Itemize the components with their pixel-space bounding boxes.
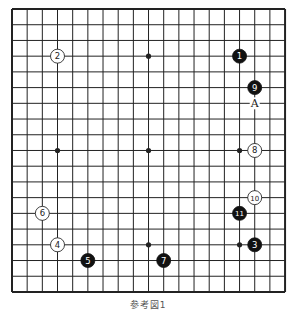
white-stone: 2 (51, 49, 65, 63)
move-number: 1 (237, 51, 242, 61)
white-stone: 6 (35, 206, 49, 220)
white-stone: 10 (248, 191, 262, 205)
black-stone: 11 (233, 206, 247, 220)
move-number: 8 (252, 145, 257, 155)
black-stone: 1 (233, 49, 247, 63)
white-stone: 8 (248, 143, 262, 157)
go-board: 1234567891011 A (0, 0, 296, 296)
move-number: 2 (55, 51, 60, 61)
black-stone: 9 (248, 81, 262, 95)
black-stone: 7 (157, 254, 171, 268)
star-point (55, 148, 60, 153)
board-labels: A (250, 97, 260, 110)
white-stone: 4 (51, 238, 65, 252)
black-stone: 5 (81, 254, 95, 268)
move-number: 10 (250, 195, 259, 203)
move-number: 4 (55, 240, 60, 250)
move-number: 7 (161, 256, 166, 266)
move-number: 11 (235, 210, 244, 218)
move-number: 6 (40, 208, 45, 218)
star-point (146, 148, 151, 153)
star-point (237, 148, 242, 153)
diagram-caption: 参考図1 (0, 298, 296, 311)
star-point (146, 54, 151, 59)
star-point (237, 242, 242, 247)
point-label: A (250, 97, 260, 110)
black-stone: 3 (248, 238, 262, 252)
move-number: 3 (252, 240, 257, 250)
star-point (146, 242, 151, 247)
move-number: 5 (85, 256, 90, 266)
move-number: 9 (252, 83, 257, 93)
